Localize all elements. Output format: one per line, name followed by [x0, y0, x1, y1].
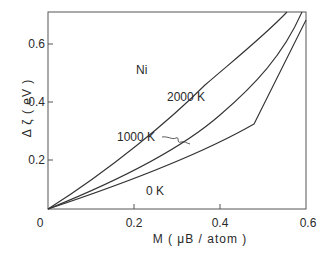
x-tick-label: 0.2 [126, 216, 143, 230]
y-tick-label: 0.6 [28, 37, 45, 51]
x-ticks [134, 204, 220, 209]
x-tick-label: 0.4 [212, 216, 229, 230]
origin-label: 0 [37, 216, 44, 230]
curve-label-2000k: 2000 K [167, 90, 205, 104]
y-tick-label: 0.2 [28, 153, 45, 167]
y-axis-label: Δ ζ ( eV ) [20, 79, 34, 138]
curve-label-0k: 0 K [146, 184, 164, 198]
curve-label-1000k: 1000 K [117, 130, 155, 144]
y-ticks [48, 44, 53, 160]
curve-1000k [48, 12, 302, 209]
x-axis-label: M ( μB / atom ) [153, 232, 248, 246]
material-label: Ni [136, 63, 147, 77]
curve-0k [48, 20, 306, 209]
chart: 0.6 0.4 0.2 0 0.2 0.4 0.6 M ( μB / atom … [0, 0, 327, 257]
curve-2000k [48, 12, 287, 209]
x-tick-label: 0.6 [300, 216, 317, 230]
plot-frame [48, 12, 306, 209]
